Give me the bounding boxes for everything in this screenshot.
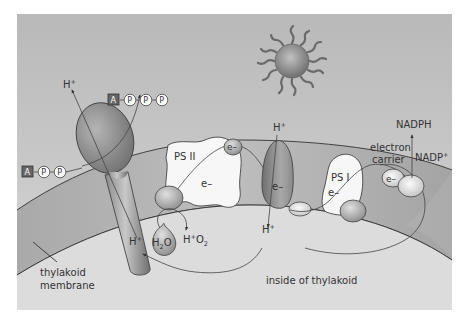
fnr-enzyme	[398, 175, 424, 197]
electron-label-ps2: e–	[201, 178, 212, 189]
atp-phosphate-1: P	[127, 96, 132, 105]
atp-phosphate-2: P	[143, 96, 148, 105]
adp-adenine: A	[25, 168, 31, 177]
thylakoid-diagram: H+ A P P P A P P PS II e– e–	[0, 0, 462, 321]
atp-phosphate-3: P	[159, 96, 164, 105]
oxygen-evolving-complex	[155, 186, 183, 210]
plastoquinone-blob: e–	[224, 139, 242, 155]
nadph-label: NADPH	[396, 119, 432, 130]
atp-adenine: A	[111, 96, 117, 105]
thylakoid-membrane-label-line2: membrane	[40, 280, 95, 291]
ps2-label: PS II	[174, 151, 195, 162]
inside-thylakoid-label: inside of thylakoid	[266, 275, 357, 286]
electron-label-carrier: e–	[386, 174, 397, 184]
electron-label-top: e–	[227, 142, 238, 152]
plastocyanin-blob	[289, 202, 311, 216]
electron-label-cytochrome: e–	[272, 181, 283, 192]
adp-phosphate-2: P	[57, 168, 62, 177]
electron-carrier-label-line1: electron	[370, 142, 411, 153]
electron-carrier-label-line2: carrier	[372, 154, 406, 165]
ps1-lumen-blob	[340, 200, 366, 222]
adp-phosphate-1: P	[41, 168, 46, 177]
thylakoid-membrane-label-line1: thylakoid	[40, 267, 86, 278]
ps1-label: PS I	[331, 172, 350, 183]
